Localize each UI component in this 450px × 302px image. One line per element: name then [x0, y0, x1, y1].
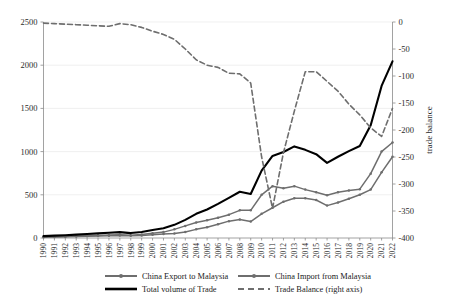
left-axis-tick-label: 500 [25, 190, 38, 200]
series-marker [391, 156, 394, 159]
x-axis-tick-label: 2003 [181, 243, 190, 258]
series-marker [119, 233, 122, 236]
x-axis-tick-label: 2014 [301, 243, 310, 258]
x-axis-tick-label: 1990 [39, 243, 48, 258]
series-marker [337, 201, 340, 204]
legend-item-label: China Import from Malaysia [275, 272, 371, 281]
x-axis-tick-label: 2009 [247, 243, 256, 258]
series-marker [282, 200, 285, 203]
series-marker [380, 171, 383, 174]
series-marker [293, 197, 296, 200]
x-axis-tick-label: 1997 [116, 243, 125, 258]
series-marker [130, 234, 133, 237]
series-marker [337, 191, 340, 194]
series-marker [97, 234, 100, 237]
x-axis-tick-label: 2021 [377, 243, 386, 258]
series-marker [195, 228, 198, 231]
series-marker [162, 231, 165, 234]
right-axis-title: trade balance [424, 106, 434, 154]
series-marker [239, 209, 242, 212]
series-marker [304, 188, 307, 191]
series-marker [108, 234, 111, 237]
x-axis-tick-label: 2004 [192, 243, 201, 258]
x-axis-tick-label: 2007 [225, 243, 234, 258]
x-axis-tick-label: 1999 [137, 243, 146, 258]
series-marker [228, 220, 231, 223]
legend-swatch-marker [252, 274, 256, 278]
right-axis-tick-label: -100 [399, 71, 415, 81]
right-axis-tick-label: -50 [399, 44, 410, 54]
left-axis-tick-label: 0 [33, 233, 37, 243]
left-axis-tick-label: 2500 [21, 17, 38, 27]
right-axis-tick-label: -400 [399, 233, 415, 243]
x-axis-tick-label: 2018 [345, 243, 354, 258]
right-axis-tick-label: -150 [399, 98, 415, 108]
series-marker [239, 218, 242, 221]
x-axis-tick-label: 2005 [203, 243, 212, 258]
left-axis-tick-label: 1000 [21, 147, 38, 157]
right-axis-tick-label: -200 [399, 125, 415, 135]
x-axis-tick-label: 2008 [236, 243, 245, 258]
series-marker [206, 219, 209, 222]
series-marker [206, 226, 209, 229]
x-axis-tick-label: 2011 [268, 243, 277, 258]
series-marker [369, 188, 372, 191]
series-marker [173, 228, 176, 231]
series-marker [304, 197, 307, 200]
x-axis-tick-label: 2012 [279, 243, 288, 258]
series-marker [326, 194, 329, 197]
series-marker [195, 221, 198, 224]
x-axis-tick-label: 2015 [312, 243, 321, 258]
x-axis-tick-label: 2020 [366, 243, 375, 258]
left-axis-tick-label: 2000 [21, 60, 38, 70]
series-marker [380, 150, 383, 153]
chart-container: 05001000150020002500 -400-350-300-250-20… [0, 0, 450, 302]
series-marker [217, 216, 220, 219]
series-marker [348, 189, 351, 192]
x-axis-tick-label: 2016 [323, 243, 332, 258]
series-marker [359, 188, 362, 191]
x-axis-tick-label: 2017 [334, 243, 343, 258]
x-axis-tick-label: 1995 [94, 243, 103, 258]
series-marker [293, 185, 296, 188]
series-marker [249, 209, 252, 212]
x-axis-tick-label: 1991 [50, 243, 59, 258]
series-marker [173, 232, 176, 235]
series-marker [359, 194, 362, 197]
series-marker [184, 225, 187, 228]
series-marker [348, 197, 351, 200]
x-axis-tick-label: 2006 [214, 243, 223, 258]
series-marker [315, 199, 318, 202]
right-axis-tick-label: 0 [399, 17, 403, 27]
x-axis-tick-label: 1996 [105, 243, 114, 258]
x-axis-tick-label: 1994 [83, 243, 92, 258]
series-marker [260, 213, 263, 216]
right-axis-tick-label: -300 [399, 179, 415, 189]
x-axis-tick-label: 2000 [148, 243, 157, 258]
x-axis-tick-label: 2013 [290, 243, 299, 258]
series-marker [315, 191, 318, 194]
x-axis-tick-label: 2001 [159, 243, 168, 258]
series-marker [184, 231, 187, 234]
right-axis-tick-label: -250 [399, 152, 415, 162]
x-axis-tick-label: 1998 [127, 243, 136, 258]
series-marker [282, 187, 285, 190]
x-axis-tick-label: 1992 [61, 243, 70, 258]
series-marker [140, 233, 143, 236]
series-marker [391, 141, 394, 144]
series-marker [228, 213, 231, 216]
legend-item-label: Total volume of Trade [142, 285, 217, 294]
x-axis-tick-label: 2002 [170, 243, 179, 258]
left-axis-tick-label: 1500 [21, 103, 38, 113]
legend-item-label: China Export to Malaysia [142, 272, 229, 281]
legend-item-label: Trade Balance (right axis) [275, 285, 363, 294]
x-axis-tick-label: 2019 [356, 243, 365, 258]
series-marker [217, 223, 220, 226]
series-marker [249, 220, 252, 223]
x-axis-tick-label: 2022 [388, 243, 397, 258]
legend-swatch-marker [119, 274, 123, 278]
series-marker [271, 185, 274, 188]
series-marker [369, 172, 372, 175]
trade-line-chart: 05001000150020002500 -400-350-300-250-20… [0, 0, 450, 302]
x-axis-tick-label: 2010 [257, 243, 266, 258]
